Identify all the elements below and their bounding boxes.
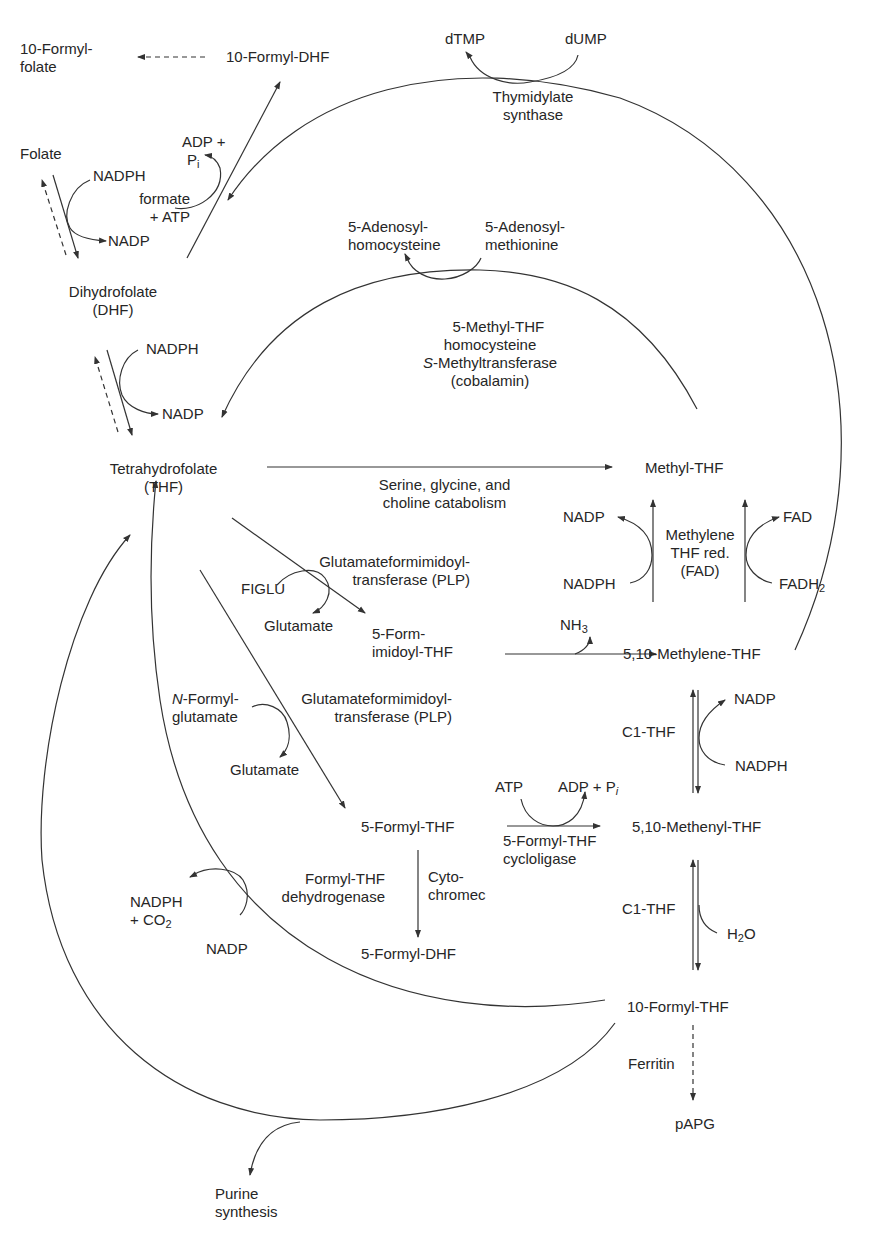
compound-formimidoyl-thf: 5-Form- imidoyl-THF	[372, 625, 453, 661]
curve-h2o	[699, 905, 717, 933]
arrow-dhf-to-thf	[107, 350, 132, 435]
cofactor-nh3: NH3	[560, 616, 588, 634]
cofactor-pi: Pi	[187, 151, 199, 169]
enzyme-ferritin: Ferritin	[628, 1055, 675, 1073]
compound-5-formyl-dhf: 5-Formyl-DHF	[361, 945, 456, 963]
cofactor-h2o: H2O	[727, 925, 756, 943]
cofactor-glutamate-1: Glutamate	[264, 617, 333, 635]
cofactor-adp-plus: ADP +	[182, 133, 226, 151]
compound-dtmp: dTMP	[445, 30, 485, 48]
cofactor-nadp-c1: NADP	[734, 690, 776, 708]
compound-5-formyl-thf: 5-Formyl-THF	[361, 818, 454, 836]
curve-nadph-nadp-dhf	[120, 350, 158, 414]
compound-10-formyl-thf: 10-Formyl-THF	[627, 998, 729, 1016]
curve-atp-adp	[521, 792, 585, 826]
compound-dihydrofolate: Dihydrofolate (DHF)	[58, 283, 168, 319]
arrow-dhf-to-formyldhf	[187, 82, 280, 258]
purine-synthesis-label: Purine synthesis	[215, 1185, 278, 1221]
cofactor-nadph-mthfr: NADPH	[563, 575, 616, 593]
enzyme-formyl-thf-dehydrogenase: Formyl-THF dehydrogenase	[235, 870, 385, 906]
arrow-thf-to-dhf-dashed	[95, 357, 118, 432]
compound-tetrahydrofolate: Tetrahydrofolate (THF)	[96, 460, 231, 496]
curve-nadph-nadp-folate	[67, 180, 106, 241]
enzyme-methionine-synthase: 5-Methyl-THF homocysteineS-Methyltransfe…	[405, 300, 575, 408]
compound-10-formyl-dhf: 10-Formyl-DHF	[226, 48, 329, 66]
cofactor-nadph-dhf: NADPH	[146, 340, 199, 358]
enzyme-c1-thf-1: C1-THF	[622, 723, 675, 741]
curve-fadh2-to-fad	[746, 517, 779, 583]
curve-sam-sah	[407, 258, 481, 279]
arrow-dhf-to-folate-dashed	[42, 180, 66, 255]
compound-methylene-thf: 5,10-Methylene-THF	[623, 645, 761, 663]
cofactor-formate-atp: formate + ATP	[125, 190, 190, 226]
cofactor-fad: FAD	[783, 508, 812, 526]
enzyme-glutamate-formimidoyltransferase-1: Glutamateformimidoyl- transferase (PLP)	[290, 553, 470, 589]
compound-adenosylmethionine: 5-Adenosyl- methionine	[485, 218, 565, 254]
enzyme-methylene-thf-reductase: Methylene THF red. (FAD)	[655, 526, 745, 580]
arrow-to-purine-synthesis	[250, 1122, 300, 1175]
curve-nadph-to-nadp	[618, 517, 652, 583]
cofactor-nadp-mthfr: NADP	[563, 508, 605, 526]
enzyme-cytochrome-c: Cyto- chromec	[428, 868, 486, 904]
compound-folate: Folate	[20, 145, 62, 163]
cofactor-nadph-co2: NADPH+ CO2	[130, 893, 183, 929]
pathway-arrows	[0, 0, 887, 1242]
cofactor-fadh2: FADH2	[779, 575, 825, 593]
cofactor-nadph-folate: NADPH	[93, 167, 146, 185]
cofactor-adp-pi: ADP + Pi	[558, 778, 618, 796]
compound-papg: pAPG	[675, 1115, 715, 1133]
enzyme-formyl-thf-cycloligase: 5-Formyl-THF cycloligase	[503, 832, 596, 868]
enzyme-serine-glycine-choline: Serine, glycine, and choline catabolism	[352, 476, 537, 512]
compound-10-formylfolate: 10-Formyl- folate	[20, 40, 93, 76]
folate-pathway-diagram: 10-Formyl- folate 10-Formyl-DHF Folate D…	[0, 0, 887, 1242]
enzyme-glutamate-formimidoyltransferase-2: Glutamateformimidoyl- transferase (PLP)	[272, 690, 452, 726]
curve-nh3	[575, 637, 590, 654]
cofactor-nadp-folate: NADP	[108, 232, 150, 250]
curve-dump-dtmp	[470, 55, 578, 83]
compound-dump: dUMP	[565, 30, 607, 48]
cofactor-nadp-fdh: NADP	[206, 940, 248, 958]
cofactor-nadph-c1: NADPH	[735, 757, 788, 775]
enzyme-c1-thf-2: C1-THF	[622, 900, 675, 918]
enzyme-thymidylate-synthase: Thymidylate synthase	[478, 88, 588, 124]
compound-adenosylhomocysteine: 5-Adenosyl- homocysteine	[348, 218, 441, 254]
compound-methyl-thf: Methyl-THF	[645, 459, 723, 477]
curve-nadph-nadp-c1	[699, 700, 725, 765]
cofactor-n-formylglutamate: N-Formyl- glutamate	[172, 690, 239, 726]
cofactor-figlu: FIGLU	[241, 580, 285, 598]
cofactor-glutamate-2: Glutamate	[230, 761, 299, 779]
arrow-folate-to-dhf	[53, 175, 78, 258]
cofactor-nadp-dhf: NADP	[162, 405, 204, 423]
cofactor-atp: ATP	[495, 778, 523, 796]
compound-methenyl-thf: 5,10-Methenyl-THF	[632, 818, 761, 836]
